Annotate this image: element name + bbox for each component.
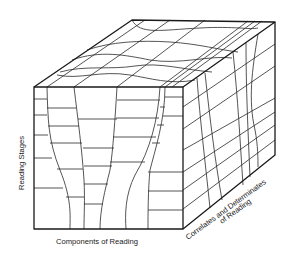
front-face-grid (34, 87, 183, 229)
axis-label-reading-stages: Reading Stages (17, 136, 26, 190)
reading-cube-diagram: Reading Stages Components of Reading Cor… (0, 0, 297, 268)
axis-label-correlates-line1: Correlates and Determinates (184, 177, 268, 241)
axis-label-components-of-reading: Components of Reading (56, 237, 138, 246)
